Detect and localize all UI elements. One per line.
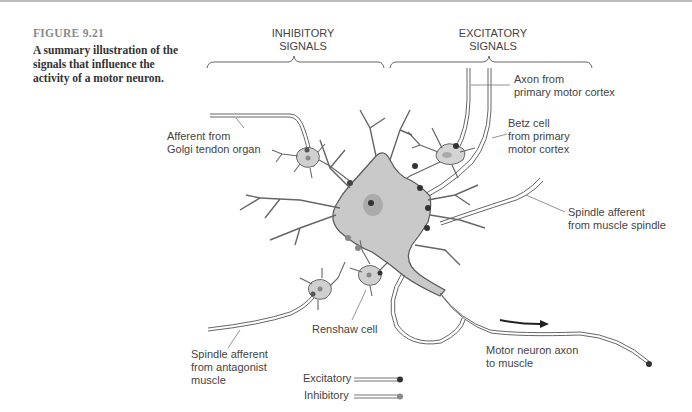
spindle-afferent-antagonist xyxy=(208,296,314,331)
legend-excitatory: Excitatory xyxy=(303,372,351,385)
golgi-interneuron xyxy=(272,144,355,185)
legend-inhibitory: Inhibitory xyxy=(304,389,349,402)
brace-inhibitory xyxy=(207,56,384,68)
label-motor-neuron-axon: Motor neuron axon to muscle xyxy=(486,344,578,370)
label-spindle-afferent-muscle: Spindle afferent from muscle spindle xyxy=(568,206,666,232)
direction-arrow-icon xyxy=(500,320,540,324)
spindle-afferent-muscle xyxy=(440,178,543,225)
antagonist-interneuron xyxy=(300,262,345,310)
label-axon-primary-motor-cortex: Axon from primary motor cortex xyxy=(514,73,615,99)
excitatory-terminal-icon xyxy=(397,377,403,383)
muscle-terminal xyxy=(646,361,652,367)
axon-primary-motor-cortex xyxy=(410,68,491,203)
label-spindle-afferent-antagonist: Spindle afferent from antagonist muscle xyxy=(191,348,268,387)
motor-neuron-soma xyxy=(333,153,445,296)
label-betz-cell: Betz cell from primary motor cortex xyxy=(508,117,570,156)
label-golgi-afferent: Afferent from Golgi tendon organ xyxy=(167,130,261,156)
label-renshaw-cell: Renshaw cell xyxy=(312,323,377,336)
brace-excitatory xyxy=(390,56,592,68)
legend-lines xyxy=(354,377,403,400)
inhibitory-terminal-icon xyxy=(397,394,403,400)
